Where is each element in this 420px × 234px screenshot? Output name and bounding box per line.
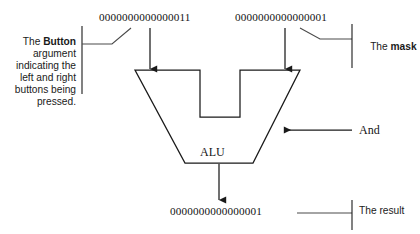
mask-callout: The mask — [359, 29, 417, 65]
mask-callout-prefix: The — [370, 41, 390, 52]
button-argument-callout: The Button argument indicating the left … — [0, 24, 76, 120]
button-callout-prefix: The — [23, 36, 43, 47]
alu-and-diagram: 0000000000000011 0000000000000001 ALU An… — [0, 0, 420, 234]
left-operand-value: 0000000000000011 — [99, 11, 190, 24]
alu-label: ALU — [200, 145, 225, 159]
result-callout: The result — [359, 205, 404, 217]
button-callout-emphasis: Button — [43, 36, 76, 47]
right-operand-value: 0000000000000001 — [235, 11, 327, 24]
operation-label: And — [359, 123, 380, 137]
mask-callout-emphasis: mask — [391, 41, 417, 52]
button-callout-leader — [82, 28, 131, 44]
button-callout-rest: argument indicating the left and right b… — [15, 48, 76, 107]
result-value: 0000000000000001 — [170, 205, 262, 218]
mask-callout-leader — [300, 28, 352, 39]
